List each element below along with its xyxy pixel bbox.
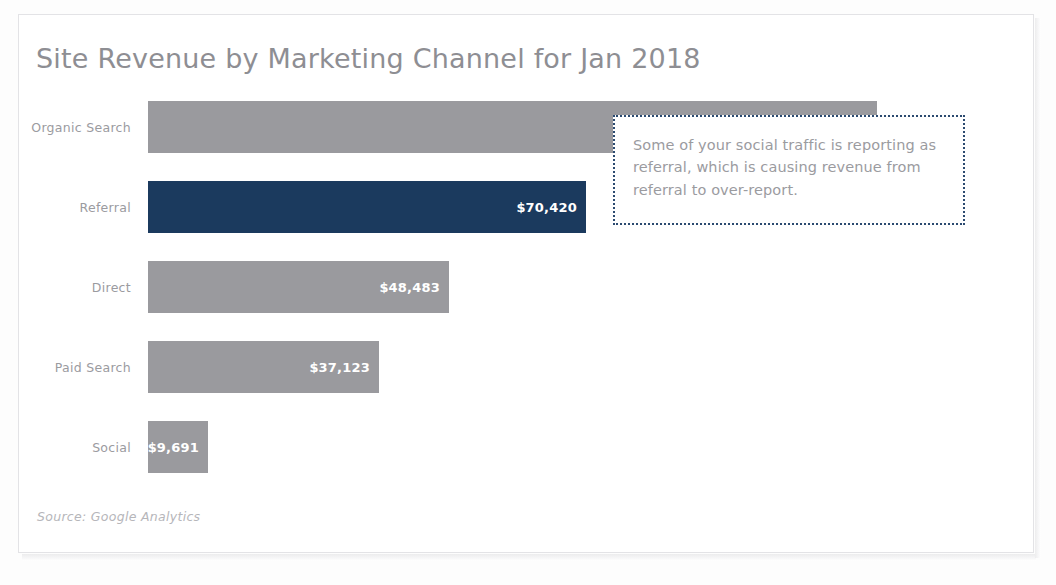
bar-value-label: $48,483 — [379, 261, 440, 313]
bar-row: Direct$48,483 — [19, 261, 1035, 313]
bar-row: Paid Search$37,123 — [19, 341, 1035, 393]
category-label: Organic Search — [19, 101, 131, 153]
bar-row: Social$9,691 — [19, 421, 1035, 473]
bar-highlighted[interactable]: $70,420 — [148, 181, 586, 233]
source-note: Source: Google Analytics — [37, 509, 200, 524]
bar-value-label: $9,691 — [148, 421, 199, 473]
bar-value-label: $70,420 — [516, 181, 577, 233]
category-label: Paid Search — [19, 341, 131, 393]
chart-slide: Site Revenue by Marketing Channel for Ja… — [18, 14, 1034, 553]
bar[interactable]: $48,483 — [148, 261, 449, 313]
bar-value-label: $37,123 — [309, 341, 370, 393]
bar[interactable]: $37,123 — [148, 341, 379, 393]
category-label: Direct — [19, 261, 131, 313]
chart-title: Site Revenue by Marketing Channel for Ja… — [36, 43, 701, 74]
category-label: Social — [19, 421, 131, 473]
annotation-callout-text: Some of your social traffic is reporting… — [633, 134, 945, 201]
category-label: Referral — [19, 181, 131, 233]
slide-shadow-bottom — [22, 554, 1036, 561]
annotation-callout: Some of your social traffic is reporting… — [613, 115, 965, 225]
bar[interactable]: $9,691 — [148, 421, 208, 473]
slide-shadow-right — [1035, 18, 1041, 558]
